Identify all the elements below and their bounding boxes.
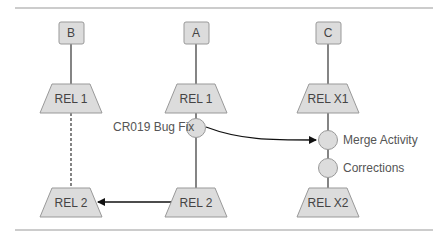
activity-label-bugfix: CR019 Bug Fix: [113, 120, 194, 134]
release-label-a-rel2: REL 2: [180, 196, 213, 210]
release-label-a-rel1: REL 1: [180, 92, 213, 106]
activity-label-corrections: Corrections: [343, 161, 404, 175]
release-label-c-relx1: REL X1: [308, 92, 349, 106]
activity-corrections-node[interactable]: [319, 159, 338, 178]
branch-label-c: C: [324, 26, 333, 40]
merge-arrow: [206, 127, 316, 140]
branch-label-a: A: [192, 26, 200, 40]
branch-label-b: B: [67, 26, 75, 40]
release-label-c-relx2: REL X2: [308, 196, 349, 210]
release-label-b-rel2: REL 2: [55, 196, 88, 210]
activity-label-merge: Merge Activity: [343, 133, 418, 147]
activity-merge-node[interactable]: [319, 131, 338, 150]
release-label-b-rel1: REL 1: [55, 92, 88, 106]
